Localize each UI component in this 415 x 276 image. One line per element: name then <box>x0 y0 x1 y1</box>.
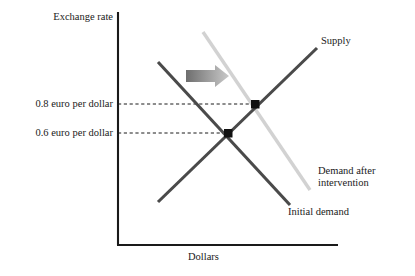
initial-demand-label: Initial demand <box>288 206 349 218</box>
supply-curve-label: Supply <box>321 35 351 47</box>
y-axis-title: Exchange rate <box>53 11 113 23</box>
demand-after-intervention-curve <box>203 32 310 190</box>
demand-shift-arrow <box>186 65 229 87</box>
supply-curve <box>158 48 317 202</box>
demand-after-intervention-label: Demand after intervention <box>318 165 410 190</box>
exchange-rate-diagram: Exchange rate Dollars 0.8 euro per dolla… <box>0 0 415 276</box>
y-tick-label-high: 0.8 euro per dollar <box>0 98 113 110</box>
x-axis-title: Dollars <box>188 251 219 263</box>
equilibrium-marker-new <box>251 100 260 109</box>
y-tick-label-low: 0.6 euro per dollar <box>0 127 113 139</box>
equilibrium-marker-initial <box>224 129 233 138</box>
